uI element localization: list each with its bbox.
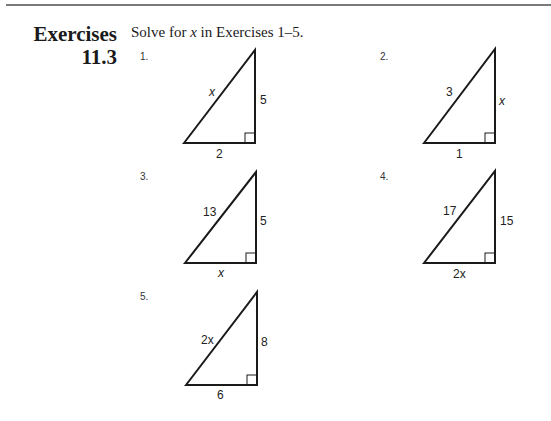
- triangle-3: [185, 172, 256, 263]
- label-4-base: 2x: [453, 267, 466, 281]
- label-3-base: x: [217, 266, 225, 280]
- label-5-vert: 8: [261, 335, 268, 349]
- triangle-4: [424, 171, 495, 263]
- label-4-hyp: 17: [443, 204, 457, 218]
- triangle-figures: x 5 2 3 x 1 13 5 x 17 15 2x 2x 8 6: [0, 0, 551, 421]
- triangle-2: [424, 49, 495, 143]
- label-5-hyp: 2x: [201, 333, 214, 347]
- triangle-1: [184, 50, 255, 143]
- label-1-hyp: x: [208, 85, 216, 99]
- label-2-hyp: 3: [446, 85, 453, 99]
- label-1-base: 2: [216, 147, 223, 161]
- label-3-vert: 5: [260, 214, 267, 228]
- label-2-vert: x: [498, 94, 506, 108]
- label-3-hyp: 13: [203, 205, 217, 219]
- label-1-vert: 5: [260, 93, 267, 107]
- label-4-vert: 15: [500, 214, 514, 228]
- label-5-base: 6: [217, 388, 224, 402]
- triangle-5: [186, 292, 257, 385]
- label-2-base: 1: [456, 147, 463, 161]
